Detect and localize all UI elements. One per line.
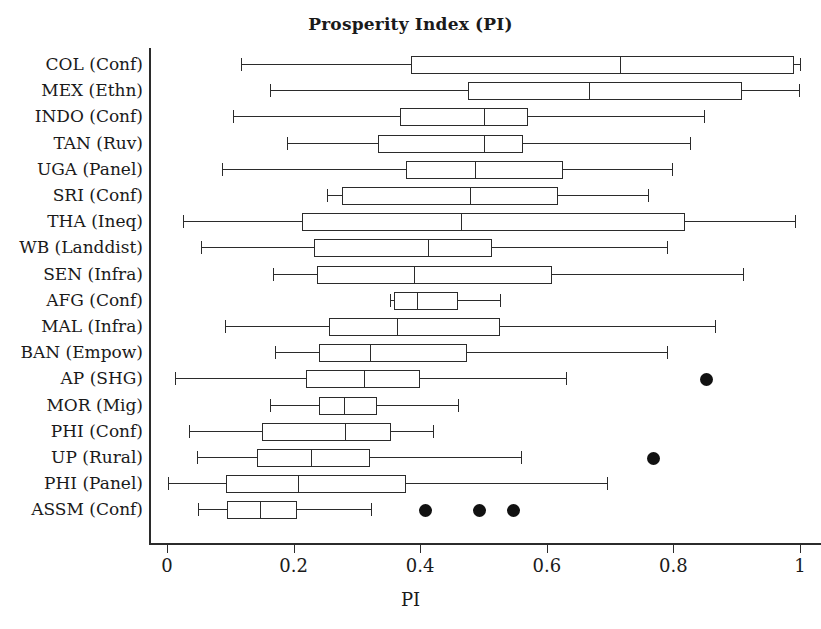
- whisker-line-low: [241, 64, 411, 65]
- y-axis-label-mex-ethn: MEX (Ethn): [0, 82, 143, 99]
- box-rect: [314, 239, 492, 257]
- whisker-cap-low: [168, 477, 169, 490]
- median-line: [461, 213, 462, 231]
- whisker-cap-high: [566, 372, 567, 385]
- whisker-line-low: [275, 352, 319, 353]
- median-line: [311, 449, 312, 467]
- whisker-cap-low: [390, 294, 391, 307]
- y-axis-label-afg-conf: AFG (Conf): [0, 292, 143, 309]
- whisker-line-high: [528, 116, 703, 117]
- box-rect: [227, 501, 297, 519]
- whisker-line-high: [492, 247, 667, 248]
- whisker-line-high: [297, 509, 371, 510]
- outlier-point: [700, 373, 713, 386]
- whisker-line-high: [563, 169, 672, 170]
- whisker-line-low: [197, 457, 257, 458]
- median-line: [397, 318, 398, 336]
- y-axis-label-tan-ruv: TAN (Ruv): [0, 135, 143, 152]
- box-rect: [257, 449, 370, 467]
- whisker-line-high: [742, 90, 799, 91]
- whisker-cap-high: [648, 189, 649, 202]
- y-axis-label-uga-panel: UGA (Panel): [0, 161, 143, 178]
- whisker-line-high: [558, 195, 648, 196]
- whisker-cap-low: [197, 451, 198, 464]
- outlier-point: [419, 504, 432, 517]
- box-rect: [226, 475, 406, 493]
- x-axis-tick-mark: [294, 545, 295, 553]
- box-rect: [262, 423, 391, 441]
- y-axis-label-mal-infra: MAL (Infra): [0, 318, 143, 335]
- median-line: [260, 501, 261, 519]
- y-axis-label-mor-mig: MOR (Mig): [0, 397, 143, 414]
- x-axis-tick-label: 0.6: [532, 556, 561, 576]
- whisker-line-low: [201, 247, 314, 248]
- whisker-line-high: [500, 326, 715, 327]
- median-line: [475, 161, 476, 179]
- x-axis-tick-label: 0.4: [406, 556, 435, 576]
- box-rect: [400, 108, 528, 126]
- whisker-line-high: [523, 143, 689, 144]
- whisker-cap-low: [183, 215, 184, 228]
- box-rect: [411, 56, 794, 74]
- whisker-cap-low: [327, 189, 328, 202]
- y-axis-label-sen-infra: SEN (Infra): [0, 266, 143, 283]
- whisker-line-low: [327, 195, 343, 196]
- box-rect: [406, 161, 563, 179]
- whisker-cap-low: [189, 425, 190, 438]
- boxplot-row: [150, 340, 821, 366]
- whisker-line-high: [406, 483, 607, 484]
- x-axis-line: [149, 543, 821, 545]
- whisker-cap-high: [799, 84, 800, 97]
- median-line: [417, 292, 418, 310]
- whisker-line-low: [189, 431, 262, 432]
- outlier-point: [647, 452, 660, 465]
- boxplot-row: [150, 314, 821, 340]
- whisker-cap-low: [287, 137, 288, 150]
- whisker-line-low: [168, 483, 226, 484]
- box-rect: [329, 318, 500, 336]
- box-rect: [302, 213, 686, 231]
- whisker-cap-low: [275, 346, 276, 359]
- x-axis-tick-mark: [167, 545, 168, 553]
- boxplot-row: [150, 209, 821, 235]
- y-axis-label-sri-conf: SRI (Conf): [0, 187, 143, 204]
- whisker-cap-low: [201, 241, 202, 254]
- whisker-line-low: [183, 221, 302, 222]
- box-rect: [394, 292, 459, 310]
- boxplot-row: [150, 288, 821, 314]
- whisker-line-high: [420, 378, 566, 379]
- whisker-cap-high: [743, 268, 744, 281]
- median-line: [414, 266, 415, 284]
- median-line: [620, 56, 621, 74]
- box-rect: [378, 135, 523, 153]
- x-axis-tick-mark: [420, 545, 421, 553]
- box-rect: [319, 344, 467, 362]
- boxplot-row: [150, 183, 821, 209]
- whisker-line-high: [467, 352, 667, 353]
- x-axis-tick-mark: [673, 545, 674, 553]
- median-line: [364, 370, 365, 388]
- boxplot-row: [150, 445, 821, 471]
- whisker-line-high: [391, 431, 433, 432]
- whisker-cap-high: [672, 163, 673, 176]
- x-axis-tick-label: 1: [794, 556, 805, 576]
- whisker-line-high: [370, 457, 522, 458]
- boxplot-row: [150, 419, 821, 445]
- whisker-cap-low: [270, 84, 271, 97]
- median-line: [484, 135, 485, 153]
- whisker-cap-high: [521, 451, 522, 464]
- boxplot-row: [150, 235, 821, 261]
- x-axis-title: PI: [0, 589, 821, 610]
- median-line: [298, 475, 299, 493]
- y-axis-label-assm-conf: ASSM (Conf): [0, 501, 143, 518]
- whisker-cap-low: [198, 503, 199, 516]
- whisker-line-low: [175, 378, 306, 379]
- whisker-line-low: [273, 274, 317, 275]
- outlier-point: [507, 504, 520, 517]
- whisker-cap-high: [433, 425, 434, 438]
- median-line: [370, 344, 371, 362]
- outlier-point: [473, 504, 486, 517]
- median-line: [428, 239, 429, 257]
- whisker-line-low: [198, 509, 227, 510]
- whisker-cap-high: [690, 137, 691, 150]
